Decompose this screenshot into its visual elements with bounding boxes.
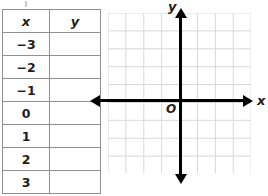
x-axis-arrow-right-icon <box>243 95 253 107</box>
xy-value-table: x y −3 −2 −1 0 1 <box>2 9 101 194</box>
cell-y-input[interactable] <box>50 148 101 171</box>
cell-x-value: −1 <box>3 79 50 102</box>
cell-x-value: −3 <box>3 33 50 56</box>
cell-x-value: −2 <box>3 56 50 79</box>
cell-x-value: 3 <box>3 171 50 194</box>
y-axis-label: y <box>168 0 176 13</box>
worksheet-figure: x y −3 −2 −1 0 1 <box>0 0 268 196</box>
column-header-y: y <box>50 10 101 33</box>
cell-x-value: 2 <box>3 148 50 171</box>
x-axis-label: x <box>257 94 265 107</box>
cell-y-input[interactable] <box>50 125 101 148</box>
table-row: 3 <box>3 171 101 194</box>
table-row: 1 <box>3 125 101 148</box>
cell-y-input[interactable] <box>50 171 101 194</box>
table-row: −1 <box>3 79 101 102</box>
coordinate-plane[interactable]: x y O <box>107 0 268 196</box>
y-axis-arrow-down-icon <box>175 174 187 184</box>
table-row: 2 <box>3 148 101 171</box>
y-axis-line <box>179 18 182 174</box>
table-row: −3 <box>3 33 101 56</box>
cell-x-value: 1 <box>3 125 50 148</box>
origin-label: O <box>166 103 176 115</box>
scan-artifact-mark <box>25 1 27 7</box>
cell-y-input[interactable] <box>50 56 101 79</box>
cell-y-input[interactable] <box>50 33 101 56</box>
x-axis-arrow-left-icon <box>90 95 100 107</box>
table-header-row: x y <box>3 10 101 33</box>
cell-x-value: 0 <box>3 102 50 125</box>
table-row: −2 <box>3 56 101 79</box>
column-header-x: x <box>3 10 50 33</box>
table-row: 0 <box>3 102 101 125</box>
